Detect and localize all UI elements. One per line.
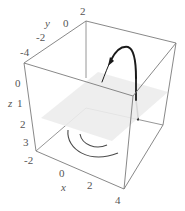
y-axis-ticks: -4 -2 0 2 y	[20, 5, 86, 58]
x-tick: 2	[87, 179, 93, 191]
direction-arrow-icon	[108, 57, 114, 66]
3d-plot: -4 -2 0 2 y 0 1 2 3 z -2 0 2 4 x	[0, 0, 185, 211]
z-tick: 1	[17, 97, 23, 109]
y-tick: 2	[80, 5, 86, 17]
y-axis-label: y	[44, 17, 50, 29]
x-tick: 0	[59, 167, 65, 179]
y-tick: -4	[20, 46, 30, 58]
y-tick: -2	[36, 31, 45, 43]
y-tick: 0	[63, 17, 69, 29]
z-tick: 0	[15, 77, 21, 89]
z-axis-ticks: 0 1 2 3 z	[7, 77, 29, 148]
z-axis-label: z	[7, 97, 13, 109]
z-tick: 2	[20, 118, 26, 130]
x-axis-label: x	[60, 181, 66, 193]
x-tick: -2	[24, 154, 33, 166]
x-tick: 4	[115, 194, 121, 206]
z-tick: 3	[23, 136, 29, 148]
x-axis-ticks: -2 0 2 4 x	[24, 154, 121, 206]
